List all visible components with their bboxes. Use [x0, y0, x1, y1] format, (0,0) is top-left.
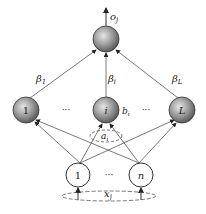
hidden-ellipsis-left: ···: [62, 105, 71, 115]
svg-text:βi: βi: [107, 73, 116, 86]
svg-text:bi: bi: [122, 106, 130, 117]
input-ellipsis: ···: [105, 170, 114, 180]
svg-text:β1: β1: [35, 73, 46, 86]
svg-text:oj: oj: [110, 11, 119, 24]
input-node-n-label: n: [138, 170, 144, 181]
hidden-node-i-label: i: [104, 105, 107, 116]
hidden-ellipsis-right: ···: [142, 105, 151, 115]
svg-text:xj: xj: [104, 188, 113, 201]
hidden-node-1-label: 1: [23, 105, 29, 116]
output-node: [93, 26, 119, 52]
elm-network-diagram: oj β1 βi βL 1 i L ··· ··· bi ai 1 n ··· …: [0, 0, 206, 214]
hidden-node-L-label: L: [178, 105, 186, 116]
svg-text:ai: ai: [101, 131, 108, 142]
svg-text:βL: βL: [171, 73, 183, 86]
output-weight-edges: [30, 50, 178, 98]
input-node-1-label: 1: [75, 170, 81, 181]
